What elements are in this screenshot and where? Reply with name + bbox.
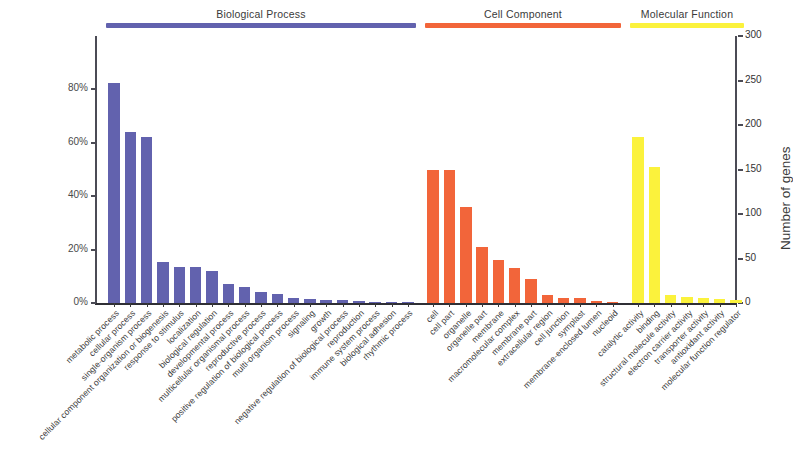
x-axis-tick bbox=[596, 303, 597, 307]
x-axis-tick bbox=[408, 303, 409, 307]
y-axis-right-tick-label: 0 bbox=[745, 296, 751, 307]
x-axis-tick bbox=[310, 303, 311, 307]
x-axis-tick bbox=[359, 303, 360, 307]
bar bbox=[493, 260, 504, 303]
y-axis-right-tick bbox=[738, 169, 743, 171]
bar bbox=[542, 295, 553, 303]
x-axis-tick bbox=[294, 303, 295, 307]
x-axis-tick bbox=[466, 303, 467, 307]
x-axis-tick bbox=[515, 303, 516, 307]
x-axis-tick bbox=[736, 303, 737, 307]
x-axis-tick bbox=[547, 303, 548, 307]
group-header-label: Cell Component bbox=[425, 8, 621, 20]
bar bbox=[108, 83, 119, 303]
x-axis-tick bbox=[163, 303, 164, 307]
x-axis-tick bbox=[179, 303, 180, 307]
x-axis-tick bbox=[433, 303, 434, 307]
x-axis-tick bbox=[130, 303, 131, 307]
x-axis-tick bbox=[261, 303, 262, 307]
x-axis-tick bbox=[326, 303, 327, 307]
bar bbox=[157, 262, 168, 303]
y-axis-left-tick-label: 60% bbox=[68, 136, 88, 147]
x-axis-tick bbox=[449, 303, 450, 307]
x-axis-tick bbox=[613, 303, 614, 307]
x-axis-tick bbox=[228, 303, 229, 307]
x-axis-tick bbox=[196, 303, 197, 307]
y-axis-right-tick-label: 50 bbox=[745, 252, 756, 263]
bar bbox=[125, 132, 136, 303]
y-axis-right-tick bbox=[738, 124, 743, 126]
x-axis-line bbox=[95, 303, 737, 305]
bar bbox=[427, 170, 438, 304]
bar bbox=[460, 207, 471, 303]
bar bbox=[509, 268, 520, 303]
bar bbox=[272, 294, 283, 303]
bar bbox=[223, 284, 234, 303]
y-axis-right-tick bbox=[738, 80, 743, 82]
x-axis-tick bbox=[114, 303, 115, 307]
x-axis-tick bbox=[375, 303, 376, 307]
x-axis-tick bbox=[392, 303, 393, 307]
x-axis-tick bbox=[212, 303, 213, 307]
y-axis-left-tick-label: 40% bbox=[68, 189, 88, 200]
bar bbox=[649, 167, 660, 303]
bar bbox=[190, 267, 201, 303]
bar bbox=[525, 279, 536, 303]
y-axis-left-tick-label: 0% bbox=[74, 296, 88, 307]
bar bbox=[239, 287, 250, 303]
x-axis-tick bbox=[245, 303, 246, 307]
bar bbox=[665, 295, 676, 303]
bar bbox=[632, 137, 643, 303]
y-axis-right-tick bbox=[738, 213, 743, 215]
y-axis-right-tick bbox=[738, 258, 743, 260]
y-axis-right-tick bbox=[738, 35, 743, 37]
group-header-bar bbox=[106, 23, 416, 28]
y-axis-right-title: Number of genes bbox=[778, 146, 793, 250]
x-axis-tick bbox=[277, 303, 278, 307]
x-axis-tick bbox=[580, 303, 581, 307]
bar bbox=[174, 267, 185, 303]
bar bbox=[444, 170, 455, 304]
x-axis-tick bbox=[498, 303, 499, 307]
x-axis-tick bbox=[720, 303, 721, 307]
x-axis-tick bbox=[703, 303, 704, 307]
x-axis-tick bbox=[482, 303, 483, 307]
group-header-bar bbox=[630, 23, 744, 28]
y-axis-right-tick-label: 200 bbox=[745, 118, 762, 129]
y-axis-left-tick-label: 80% bbox=[68, 82, 88, 93]
bar bbox=[141, 137, 152, 303]
x-axis-tick bbox=[687, 303, 688, 307]
y-axis-left-tick-label: 20% bbox=[68, 243, 88, 254]
y-axis-right-tick-label: 250 bbox=[745, 74, 762, 85]
bar bbox=[476, 247, 487, 303]
bar bbox=[206, 271, 217, 303]
x-axis-tick bbox=[147, 303, 148, 307]
group-header-label: Molecular Function bbox=[630, 8, 744, 20]
y-axis-right-tick-label: 150 bbox=[745, 163, 762, 174]
plot-area bbox=[96, 36, 736, 303]
x-axis-tick bbox=[654, 303, 655, 307]
bar bbox=[255, 292, 266, 303]
x-axis-tick bbox=[343, 303, 344, 307]
group-header-label: Biological Process bbox=[106, 8, 416, 20]
group-header-bar bbox=[425, 23, 621, 28]
x-axis-tick bbox=[564, 303, 565, 307]
y-axis-right-tick-label: 100 bbox=[745, 207, 762, 218]
x-axis-tick bbox=[671, 303, 672, 307]
y-axis-right-tick-label: 300 bbox=[745, 29, 762, 40]
